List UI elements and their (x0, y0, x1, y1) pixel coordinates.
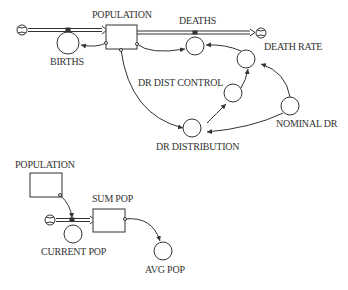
population-label: POPULATION (92, 9, 152, 20)
cloud-source-icon-2 (45, 215, 55, 225)
avg-pop-label: AVG POP (145, 264, 185, 275)
dr-distribution-aux[interactable] (183, 119, 201, 137)
dr-dist-control-aux[interactable] (224, 84, 242, 102)
nominal-dr-label: NOMINAL DR (276, 118, 337, 129)
dr-distribution-label: DR DISTRIBUTION (156, 141, 239, 152)
dr-dist-control-label: DR DIST CONTROL (138, 77, 223, 88)
deaths-label: DEATHS (179, 15, 216, 26)
population-ghost-label: POPULATION (15, 159, 75, 170)
death-rate-aux[interactable] (237, 50, 255, 68)
population-ghost-stock[interactable] (30, 173, 62, 197)
births-label: BIRTHS (50, 56, 84, 67)
current-pop-valve[interactable] (64, 225, 82, 243)
cloud-sink-icon (256, 28, 266, 38)
deaths-valve[interactable] (186, 37, 204, 55)
deaths-flow-pipe (137, 29, 255, 36)
death-rate-label: DEATH RATE (264, 41, 322, 52)
nominal-dr-aux[interactable] (281, 97, 299, 115)
current-pop-label: CURRENT POP (41, 246, 106, 257)
avg-pop-aux[interactable] (154, 242, 172, 260)
cloud-source-icon (17, 25, 27, 35)
current-pop-flow-pipe (56, 216, 95, 224)
population-stock[interactable] (106, 25, 137, 49)
births-valve[interactable] (57, 32, 79, 54)
sum-pop-label: SUM POP (92, 193, 133, 204)
sum-pop-stock[interactable] (93, 209, 125, 232)
